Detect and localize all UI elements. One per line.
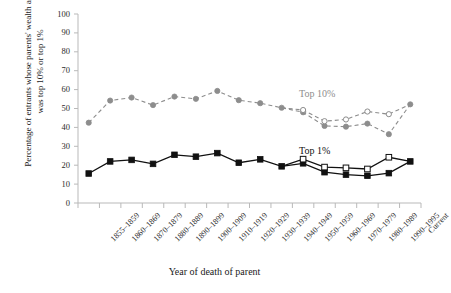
x-axis-title: Year of death of parent bbox=[0, 266, 429, 277]
y-tick-label: 90 bbox=[48, 27, 70, 37]
y-tick-label: 80 bbox=[48, 46, 70, 56]
series-label-top1: Top 1% bbox=[299, 145, 330, 156]
y-tick-label: 40 bbox=[48, 122, 70, 132]
y-tick-label: 10 bbox=[48, 179, 70, 189]
series-label-top10: Top 10% bbox=[299, 88, 335, 99]
y-tick-label: 70 bbox=[48, 65, 70, 75]
y-tick-label: 100 bbox=[48, 9, 70, 19]
y-tick-label: 0 bbox=[48, 198, 70, 208]
series-2 bbox=[86, 150, 413, 178]
y-tick-label: 30 bbox=[48, 141, 70, 151]
y-tick-label: 50 bbox=[48, 103, 70, 113]
y-tick-label: 20 bbox=[48, 160, 70, 170]
y-tick-label: 60 bbox=[48, 84, 70, 94]
